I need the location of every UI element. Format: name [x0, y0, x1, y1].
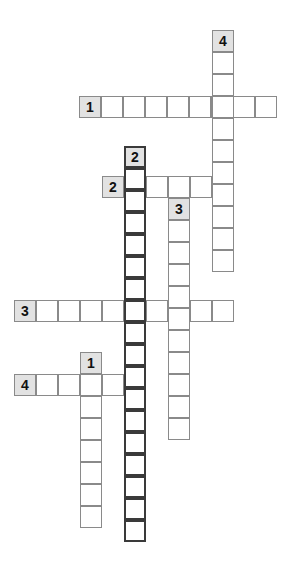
crossword-cell-2-down-9[interactable]	[124, 344, 146, 366]
crossword-cell-2-across-4[interactable]	[190, 176, 212, 198]
crossword-cell-3-down-9[interactable]	[168, 396, 190, 418]
crossword-cell-3-across-6[interactable]	[146, 300, 168, 322]
crossword-cell-3-across-3[interactable]	[80, 300, 102, 322]
crossword-cell-3-across-1[interactable]	[36, 300, 58, 322]
crossword-cell-1-down-6[interactable]	[80, 484, 102, 506]
crossword-puzzle: 12341234	[0, 0, 298, 582]
crossword-cell-2-down-10[interactable]	[124, 366, 146, 388]
crossword-cell-2-down-17[interactable]	[124, 520, 146, 542]
crossword-cell-2-down-8[interactable]	[124, 322, 146, 344]
crossword-cell-1-across-8[interactable]	[255, 96, 277, 118]
crossword-cell-1-across-4[interactable]	[167, 96, 189, 118]
crossword-cell-2-down-4[interactable]	[124, 234, 146, 256]
crossword-cell-2-across-2[interactable]	[146, 176, 168, 198]
crossword-cell-2-down-12[interactable]	[124, 410, 146, 432]
crossword-cell-2-down-7[interactable]	[124, 300, 146, 322]
crossword-cell-4-down-1[interactable]	[212, 52, 234, 74]
crossword-cell-2-down-16[interactable]	[124, 498, 146, 520]
crossword-cell-2-down-6[interactable]	[124, 278, 146, 300]
crossword-cell-3-down-4[interactable]	[168, 286, 190, 308]
crossword-cell-4-down-5[interactable]	[212, 140, 234, 162]
crossword-cell-3-across-2[interactable]	[58, 300, 80, 322]
crossword-cell-2-down-3[interactable]	[124, 212, 146, 234]
crossword-cell-3-down-5[interactable]	[168, 308, 190, 330]
crossword-cell-4-down-7[interactable]	[212, 184, 234, 206]
crossword-clue-cell-3-across[interactable]: 3	[14, 300, 36, 322]
crossword-clue-cell-3-down[interactable]: 3	[168, 198, 190, 220]
crossword-cell-1-down-4[interactable]	[80, 440, 102, 462]
crossword-cell-2-down-14[interactable]	[124, 454, 146, 476]
crossword-cell-2-down-2[interactable]	[124, 190, 146, 212]
clue-number-4-down: 4	[213, 31, 233, 51]
clue-number-2-across: 2	[103, 177, 123, 197]
clue-number-4-across: 4	[15, 375, 35, 395]
clue-number-1-down: 1	[81, 353, 101, 373]
crossword-cell-3-down-6[interactable]	[168, 330, 190, 352]
crossword-cell-3-down-10[interactable]	[168, 418, 190, 440]
crossword-cell-1-across-5[interactable]	[189, 96, 211, 118]
clue-number-1-across: 1	[80, 97, 100, 117]
clue-number-3-down: 3	[169, 199, 189, 219]
crossword-cell-4-down-2[interactable]	[212, 74, 234, 96]
crossword-cell-4-across-1[interactable]	[36, 374, 58, 396]
crossword-cell-3-down-7[interactable]	[168, 352, 190, 374]
crossword-cell-2-down-13[interactable]	[124, 432, 146, 454]
crossword-cell-1-down-5[interactable]	[80, 462, 102, 484]
crossword-cell-4-across-4[interactable]	[102, 374, 124, 396]
crossword-cell-2-down-15[interactable]	[124, 476, 146, 498]
crossword-cell-2-down-11[interactable]	[124, 388, 146, 410]
crossword-cell-1-down-7[interactable]	[80, 506, 102, 528]
crossword-cell-3-down-3[interactable]	[168, 264, 190, 286]
crossword-clue-cell-2-down[interactable]: 2	[124, 146, 146, 168]
crossword-cell-2-down-5[interactable]	[124, 256, 146, 278]
crossword-cell-1-across-2[interactable]	[123, 96, 145, 118]
crossword-cell-3-across-9[interactable]	[212, 300, 234, 322]
crossword-cell-1-across-7[interactable]	[233, 96, 255, 118]
crossword-cell-3-down-2[interactable]	[168, 242, 190, 264]
clue-number-3-across: 3	[15, 301, 35, 321]
crossword-cell-3-across-8[interactable]	[190, 300, 212, 322]
crossword-cell-4-down-10[interactable]	[212, 250, 234, 272]
crossword-cell-4-down-8[interactable]	[212, 206, 234, 228]
crossword-cell-4-down-6[interactable]	[212, 162, 234, 184]
crossword-cell-1-across-1[interactable]	[101, 96, 123, 118]
crossword-clue-cell-1-across[interactable]: 1	[79, 96, 101, 118]
crossword-grid: 12341234	[0, 0, 298, 582]
crossword-cell-4-down-9[interactable]	[212, 228, 234, 250]
crossword-clue-cell-4-down[interactable]: 4	[212, 30, 234, 52]
crossword-cell-3-across-4[interactable]	[102, 300, 124, 322]
crossword-cell-3-down-1[interactable]	[168, 220, 190, 242]
crossword-cell-1-down-3[interactable]	[80, 418, 102, 440]
crossword-cell-3-down-8[interactable]	[168, 374, 190, 396]
crossword-clue-cell-2-across[interactable]: 2	[102, 176, 124, 198]
crossword-cell-1-across-3[interactable]	[145, 96, 167, 118]
crossword-clue-cell-4-across[interactable]: 4	[14, 374, 36, 396]
crossword-cell-4-down-3[interactable]	[212, 96, 234, 118]
crossword-cell-4-down-4[interactable]	[212, 118, 234, 140]
clue-number-2-down: 2	[126, 148, 144, 166]
crossword-cell-1-down-2[interactable]	[80, 396, 102, 418]
crossword-cell-2-down-1[interactable]	[124, 168, 146, 190]
crossword-cell-1-down-1[interactable]	[80, 374, 102, 396]
crossword-clue-cell-1-down[interactable]: 1	[80, 352, 102, 374]
crossword-cell-2-across-3[interactable]	[168, 176, 190, 198]
crossword-cell-4-across-2[interactable]	[58, 374, 80, 396]
